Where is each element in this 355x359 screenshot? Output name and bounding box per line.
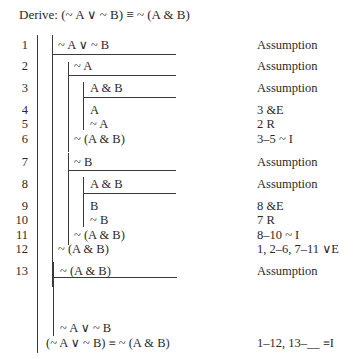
line-justification: Assumption [257, 177, 317, 191]
line-number: 11 [6, 228, 28, 242]
line-justification: 2 R [257, 117, 275, 131]
line-formula: ~ A [74, 59, 92, 73]
subproof-7-assumption-rule [68, 170, 176, 171]
line-formula: A [90, 103, 99, 117]
line-formula: ~ (A & B) [74, 132, 125, 146]
line-formula: ~ (A & B) [74, 228, 125, 242]
goal-formula: (~ A ∨ ~ B) ≡ ~ (A & B) [61, 7, 190, 22]
line-formula: ~ (A & B) [60, 264, 111, 278]
line-justification: 8–10 ~ I [257, 228, 299, 242]
line-formula: ~ A ∨ ~ B [58, 38, 109, 52]
subproof-7-scope-line [68, 153, 69, 245]
subproof-8-assumption-rule [83, 193, 176, 194]
line-justification: 7 R [257, 213, 275, 227]
line-number: 8 [6, 177, 28, 191]
line-number: 4 [6, 103, 28, 117]
line-number: 10 [6, 213, 28, 227]
subproof-1-scope-line [52, 35, 53, 287]
line-number: 9 [6, 199, 28, 213]
subproof-8-scope-line [83, 177, 84, 227]
line-formula: ~ A [90, 117, 108, 131]
conclusion-justification: 1–12, 13–__ ≡I [257, 336, 334, 350]
line-formula: ~ B [90, 213, 108, 227]
line-number: 7 [6, 155, 28, 169]
line-formula: ~ B [74, 155, 92, 169]
subproof-2-assumption-rule [68, 75, 176, 76]
subproof-3-assumption-rule [83, 97, 176, 98]
line-formula: A & B [90, 177, 123, 191]
line-justification: Assumption [257, 264, 317, 278]
line-number: 1 [6, 38, 28, 52]
line-formula: B [90, 199, 98, 213]
line-justification: Assumption [257, 38, 317, 52]
subproof-13-scope-line [53, 262, 54, 336]
subproof-1-assumption-rule [52, 54, 176, 55]
line-number: 6 [6, 132, 28, 146]
line-formula: ~ A ∨ ~ B [60, 321, 111, 335]
line-number: 12 [6, 242, 28, 256]
line-number: 3 [6, 81, 28, 95]
line-justification: 1, 2–6, 7–11 ∨E [257, 242, 339, 256]
conclusion-formula: (~ A ∨ ~ B) ≡ ~ (A & B) [46, 336, 170, 350]
line-justification: 8 &E [257, 199, 284, 213]
line-justification: Assumption [257, 81, 317, 95]
line-justification: Assumption [257, 155, 317, 169]
line-justification: 3–5 ~ I [257, 132, 293, 146]
line-justification: Assumption [257, 59, 317, 73]
outer-scope-line [37, 35, 38, 353]
line-number: 13 [6, 264, 28, 278]
line-formula: ~ (A & B) [58, 242, 109, 256]
line-number: 2 [6, 59, 28, 73]
line-formula: A & B [90, 81, 123, 95]
subproof-3-scope-line [83, 82, 84, 130]
line-number: 5 [6, 117, 28, 131]
line-justification: 3 &E [257, 103, 284, 117]
derive-label: Derive: [19, 7, 58, 22]
derivation-goal: Derive: (~ A ∨ ~ B) ≡ ~ (A & B) [19, 8, 190, 22]
